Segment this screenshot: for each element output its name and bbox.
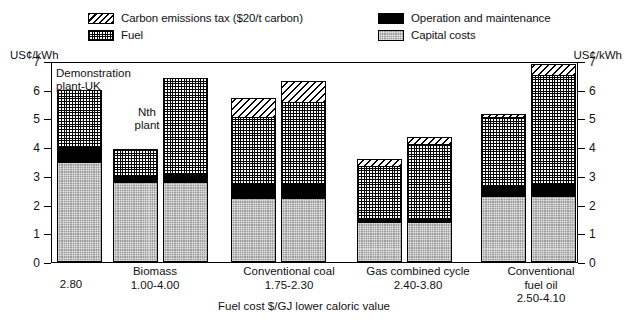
bar-6-segment-fuel xyxy=(358,167,401,219)
y-axis-left: 7 6 5 4 3 2 1 0 xyxy=(11,62,51,263)
legend-swatch-operation-maintenance-icon xyxy=(378,13,404,24)
category-fuel-cost-5: 2.50-4.10 xyxy=(486,292,596,306)
y-tick-right-7 xyxy=(578,62,585,63)
legend-item-operation-maintenance: Operation and maintenance xyxy=(378,12,550,24)
bar-6-segment-tax xyxy=(358,160,401,167)
y-tick-label-4: 4 xyxy=(33,142,40,154)
chart-legend: Carbon emissions tax ($20/t carbon) Fuel… xyxy=(0,0,630,48)
y-tick-label-0: 0 xyxy=(33,257,40,269)
bar-4[interactable] xyxy=(231,98,276,262)
bar-2-segment-fuel xyxy=(114,150,157,177)
legend-swatch-carbon-tax-icon xyxy=(88,13,114,24)
y-tick-4 xyxy=(44,148,51,149)
bar-2[interactable] xyxy=(113,149,158,262)
y-tick-1 xyxy=(44,234,51,235)
legend-label-capital-costs: Capital costs xyxy=(411,29,476,41)
legend-item-carbon-tax: Carbon emissions tax ($20/t carbon) xyxy=(88,12,303,24)
legend-label-carbon-tax: Carbon emissions tax ($20/t carbon) xyxy=(121,12,303,24)
bar-8[interactable] xyxy=(481,114,526,262)
bar-3-segment-om xyxy=(164,174,207,183)
y-axis-unit-right: US¢/kWh xyxy=(573,49,622,61)
y-tick-0 xyxy=(44,263,51,264)
legend-label-operation-maintenance: Operation and maintenance xyxy=(411,12,550,24)
y-tick-6 xyxy=(44,91,51,92)
annotation-nth-plant: Nth plant xyxy=(112,106,182,132)
bar-8-segment-cap xyxy=(482,197,525,261)
bar-9[interactable] xyxy=(531,64,576,262)
y-tick-label-7: 7 xyxy=(33,56,40,68)
bar-3-segment-cap xyxy=(164,183,207,261)
y-tick-label-5: 5 xyxy=(33,113,40,125)
category-name-5: Conventional fuel oil xyxy=(486,265,596,292)
y-tick-right-label-1: 1 xyxy=(589,228,596,240)
bar-6[interactable] xyxy=(357,159,402,262)
y-tick-right-label-7: 7 xyxy=(589,56,596,68)
y-tick-right-6 xyxy=(578,91,585,92)
y-tick-right-label-6: 6 xyxy=(589,85,596,97)
legend-item-fuel: Fuel xyxy=(88,29,143,41)
y-tick-label-1: 1 xyxy=(33,228,40,240)
bar-2-segment-cap xyxy=(114,183,157,261)
bar-5-segment-tax xyxy=(282,82,325,103)
y-tick-right-4 xyxy=(578,148,585,149)
y-tick-5 xyxy=(44,119,51,120)
y-tick-right-0 xyxy=(578,263,585,264)
y-tick-right-5 xyxy=(578,119,585,120)
bar-5-segment-om xyxy=(282,184,325,198)
category-fuel-cost-2: 1.00-4.00 xyxy=(100,279,210,293)
bar-4-segment-om xyxy=(232,184,275,198)
bar-7-segment-fuel xyxy=(408,145,451,218)
bar-4-segment-tax xyxy=(232,99,275,117)
bar-8-segment-om xyxy=(482,186,525,197)
y-tick-right-label-2: 2 xyxy=(589,200,596,212)
bar-4-segment-cap xyxy=(232,199,275,261)
category-name-4: Gas combined cycle xyxy=(348,265,488,279)
category-fuel-cost-4: 2.40-3.80 xyxy=(348,279,488,293)
category-name-2: Biomass xyxy=(100,265,210,279)
bar-1-segment-om xyxy=(58,147,101,163)
bar-1-segment-cap xyxy=(58,163,101,261)
bar-9-segment-fuel xyxy=(532,76,575,184)
bar-5-segment-cap xyxy=(282,199,325,261)
bar-7-segment-cap xyxy=(408,223,451,261)
bar-9-segment-om xyxy=(532,184,575,197)
y-tick-label-2: 2 xyxy=(33,200,40,212)
annotation-demonstration-plant: Demonstration plant-UK xyxy=(56,67,176,93)
bar-9-segment-tax xyxy=(532,65,575,76)
y-tick-3 xyxy=(44,177,51,178)
bar-1-segment-fuel xyxy=(58,91,101,148)
category-label-4: Gas combined cycle2.40-3.80 xyxy=(348,265,488,292)
category-fuel-cost-3: 1.75-2.30 xyxy=(224,279,354,293)
bar-6-segment-cap xyxy=(358,223,401,261)
bar-5[interactable] xyxy=(281,81,326,262)
category-label-1: 2.80 xyxy=(36,278,106,292)
plot-area: Demonstration plant-UK Nth plant xyxy=(51,62,578,263)
legend-swatch-fuel-icon xyxy=(88,30,114,41)
y-tick-right-1 xyxy=(578,234,585,235)
legend-item-capital-costs: Capital costs xyxy=(378,29,476,41)
y-tick-right-label-5: 5 xyxy=(589,113,596,125)
y-tick-right-label-4: 4 xyxy=(589,142,596,154)
category-label-3: Conventional coal1.75-2.30 xyxy=(224,265,354,292)
category-label-2: Biomass1.00-4.00 xyxy=(100,265,210,292)
y-tick-right-label-3: 3 xyxy=(589,171,596,183)
bar-4-segment-fuel xyxy=(232,118,275,185)
category-label-5: Conventional fuel oil2.50-4.10 xyxy=(486,265,596,306)
bar-2-segment-om xyxy=(114,176,157,183)
legend-label-fuel: Fuel xyxy=(121,29,143,41)
y-axis-right: 7 6 5 4 3 2 1 0 xyxy=(578,62,618,263)
y-tick-label-3: 3 xyxy=(33,171,40,183)
bar-9-segment-cap xyxy=(532,197,575,261)
y-tick-7 xyxy=(44,62,51,63)
bar-1[interactable] xyxy=(57,90,102,262)
bar-5-segment-fuel xyxy=(282,103,325,184)
y-tick-label-6: 6 xyxy=(33,85,40,97)
category-fuel-cost-1: 2.80 xyxy=(36,278,106,292)
y-tick-right-2 xyxy=(578,206,585,207)
x-axis-title: Fuel cost $/GJ lower caloric value xyxy=(218,300,390,312)
bar-8-segment-fuel xyxy=(482,118,525,186)
y-tick-2 xyxy=(44,206,51,207)
bar-7[interactable] xyxy=(407,137,452,262)
category-name-3: Conventional coal xyxy=(224,265,354,279)
legend-swatch-capital-costs-icon xyxy=(378,30,404,41)
